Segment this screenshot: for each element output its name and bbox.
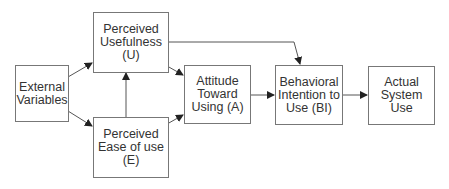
node-behavioral-intention: Behavioral Intention to Use (BI): [275, 65, 343, 125]
node-label: External Variables: [16, 81, 67, 107]
node-perceived-ease-of-use: Perceived Ease of use (E): [93, 117, 169, 178]
node-label: Attitude Toward Using (A): [191, 75, 243, 114]
node-attitude-toward-using: Attitude Toward Using (A): [184, 65, 251, 124]
node-perceived-usefulness: Perceived Usefulness (U): [93, 12, 169, 73]
node-actual-system-use: Actual System Use: [368, 66, 435, 125]
edge-external-pu: [68, 63, 92, 77]
edge-external-peou: [68, 111, 92, 126]
node-label: Actual System Use: [369, 76, 434, 115]
edge-pu-bi: [168, 42, 300, 64]
node-label: Behavioral Intention to Use (BI): [278, 76, 340, 115]
node-external-variables: External Variables: [15, 65, 69, 122]
node-label: Perceived Usefulness (U): [100, 23, 162, 62]
node-label: Perceived Ease of use (E): [98, 128, 164, 167]
